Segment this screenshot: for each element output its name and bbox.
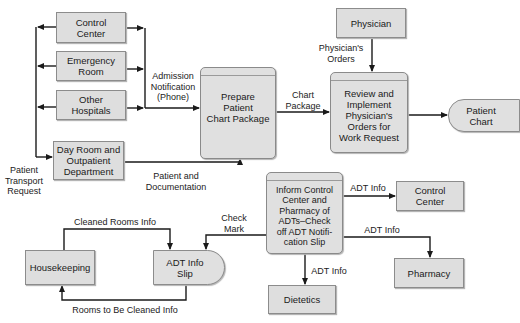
store-label: ADT Info Slip	[166, 257, 203, 279]
entity-label: Physician	[351, 18, 392, 29]
entity-other-hospitals[interactable]: Other Hospitals	[56, 90, 126, 120]
entity-control-center-left[interactable]: Control Center	[56, 12, 126, 43]
entity-label: Emergency Room	[67, 55, 115, 77]
entity-dietetics[interactable]: Dietetics	[268, 285, 336, 314]
process-label: Prepare Patient Chart Package	[207, 91, 270, 124]
entity-day-room[interactable]: Day Room and Outpatient Department	[53, 141, 124, 180]
process-label: Review and Implement Physician's Orders …	[339, 88, 399, 143]
flow-label-rooms-to-be-cleaned: Rooms to Be Cleaned Info	[60, 305, 190, 316]
flow-label-physicians-orders: Physician's Orders	[314, 43, 368, 64]
entity-label: Control Center	[415, 185, 446, 207]
flow-label-adt-info-control: ADT Info	[348, 183, 388, 194]
flow-label-admission-notification: Admission Notification (Phone)	[146, 71, 200, 103]
entity-housekeeping[interactable]: Housekeeping	[25, 250, 95, 285]
flow-label-adt-info-dietetics: ADT Info	[309, 266, 349, 277]
entity-label: Day Room and Outpatient Department	[57, 144, 120, 177]
entity-label: Dietetics	[284, 294, 320, 305]
flow-label-check-mark: Check Mark	[216, 213, 252, 234]
entity-label: Housekeeping	[30, 262, 91, 273]
entity-physician[interactable]: Physician	[336, 8, 406, 38]
process-label: Inform Control Center and Pharmacy of AD…	[276, 185, 333, 248]
flow-label-cleaned-rooms: Cleaned Rooms Info	[60, 217, 170, 228]
store-label: Patient Chart	[466, 105, 496, 127]
process-review-orders[interactable]: Review and Implement Physician's Orders …	[330, 72, 408, 153]
entity-emergency-room[interactable]: Emergency Room	[56, 51, 126, 81]
flow-label-adt-info-pharmacy: ADT Info	[362, 225, 402, 236]
entity-label: Pharmacy	[408, 268, 451, 279]
store-patient-chart[interactable]: Patient Chart	[448, 99, 520, 132]
entity-pharmacy[interactable]: Pharmacy	[394, 258, 464, 288]
entity-label: Control Center	[76, 17, 107, 39]
flow-label-patient-transport: Patient Transport Request	[2, 165, 46, 197]
entity-control-center-right[interactable]: Control Center	[396, 181, 464, 211]
store-adt-info-slip[interactable]: ADT Info Slip	[153, 250, 225, 285]
flow-label-chart-package: Chart Package	[283, 90, 323, 111]
process-inform-control[interactable]: Inform Control Center and Pharmacy of AD…	[266, 172, 343, 254]
process-prepare-chart[interactable]: Prepare Patient Chart Package	[200, 67, 276, 159]
entity-label: Other Hospitals	[71, 94, 110, 116]
flow-label-patient-documentation: Patient and Documentation	[144, 171, 208, 192]
